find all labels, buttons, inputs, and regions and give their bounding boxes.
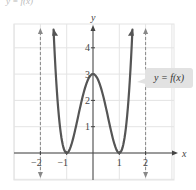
y-tick-label: 1 xyxy=(85,121,90,132)
x-tick-label: −2 xyxy=(31,157,42,168)
y-tick-label: 4 xyxy=(85,42,90,53)
x-axis-label: x xyxy=(181,148,187,159)
arrow-down-icon xyxy=(38,172,43,178)
arrow-up-icon xyxy=(143,28,148,34)
function-label-callout: y = f(x) xyxy=(145,68,193,88)
arrow-up-icon xyxy=(38,28,43,34)
y-axis-label: y xyxy=(90,12,96,23)
callout-text: y = f(x) xyxy=(154,72,184,83)
y-tick-label: 3 xyxy=(85,69,90,80)
y-axis-arrow-icon xyxy=(91,25,96,31)
x-tick-label: −1 xyxy=(57,157,68,168)
tick-labels: −2−1121234xy xyxy=(31,12,187,168)
x-tick-label: 2 xyxy=(143,157,148,168)
x-axis-arrow-icon xyxy=(172,151,178,156)
y-tick-label: 2 xyxy=(85,95,90,106)
x-tick-label: 1 xyxy=(117,157,122,168)
function-graph: −2−1121234xy xyxy=(0,0,196,190)
arrow-down-icon xyxy=(143,172,148,178)
